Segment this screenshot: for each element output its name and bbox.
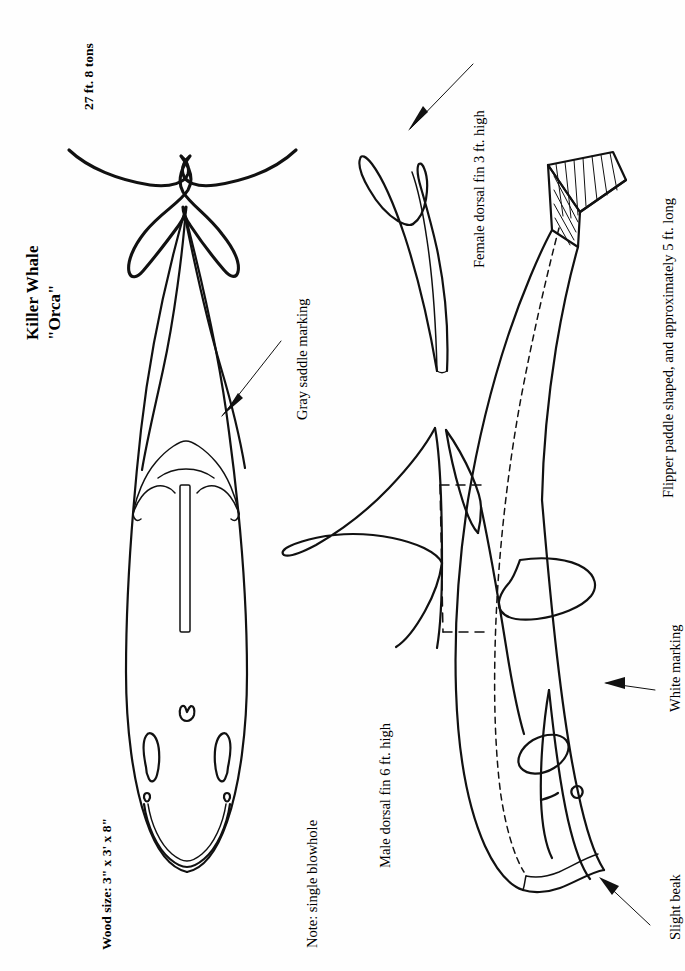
callout-male-dorsal-fin: Male dorsal fin 6 ft. high (378, 723, 393, 868)
arrow-pointer-icon (221, 341, 281, 417)
page-title: Killer Whale (24, 245, 41, 340)
callout-female-dorsal-fin: Female dorsal fin 3 ft. high (472, 110, 487, 268)
figure-top-view (69, 150, 296, 872)
hatched-cut-end (548, 152, 626, 247)
callout-slight-beak: Slight beak (668, 874, 683, 940)
wood-size-spec: Wood size: 3" x 3' x 8" (100, 818, 114, 950)
arrow-pointer-icon (604, 677, 655, 690)
page-subtitle: "Orca" (46, 285, 63, 340)
callout-flipper: Flipper paddle shaped, and approximately… (661, 198, 676, 498)
callout-white-marking: White marking (668, 625, 683, 712)
pattern-sheet: Killer Whale "Orca" 27 ft. 8 tons Wood s… (0, 0, 685, 971)
arrow-pointer-icon (408, 64, 473, 131)
arrow-pointer-icon (599, 877, 650, 925)
figure-male-dorsal-fin (283, 428, 442, 648)
callout-gray-saddle-marking: Gray saddle marking (295, 298, 310, 420)
figure-female-dorsal-fin (359, 64, 473, 373)
size-weight-spec: 27 ft. 8 tons (82, 43, 96, 110)
callout-blowhole-note: Note: single blowhole (305, 820, 320, 948)
